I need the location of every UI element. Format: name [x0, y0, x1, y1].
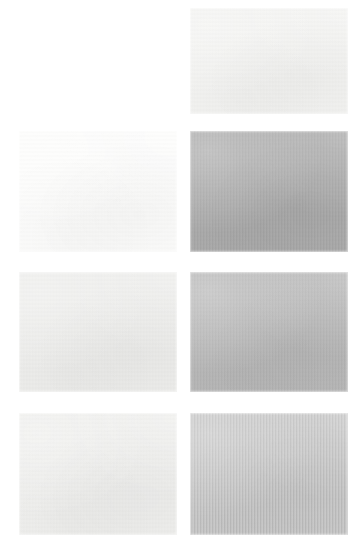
swatch-r2c2[interactable] — [190, 131, 348, 252]
swatch-fill — [190, 131, 348, 252]
swatch-r1c2[interactable] — [190, 8, 348, 114]
swatch-fill — [190, 413, 348, 535]
swatch-fill — [19, 131, 177, 252]
swatch-fill — [190, 272, 348, 392]
swatch-r3c1[interactable] — [19, 272, 177, 392]
swatch-r4c2[interactable] — [190, 413, 348, 535]
swatch-r2c1[interactable] — [19, 131, 177, 252]
swatch-fill — [190, 8, 348, 114]
swatch-r4c1[interactable] — [19, 413, 177, 535]
swatch-r3c2[interactable] — [190, 272, 348, 392]
swatch-sheet — [0, 0, 358, 556]
swatch-fill — [19, 413, 177, 535]
swatch-fill — [19, 272, 177, 392]
